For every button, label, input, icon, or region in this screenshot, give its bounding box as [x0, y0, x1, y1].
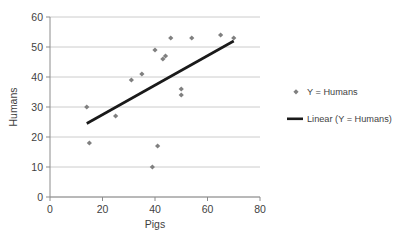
y-tick-label-60: 60 [31, 11, 43, 23]
trendline-linear [87, 41, 234, 124]
x-tick-label-20: 20 [97, 203, 109, 215]
data-point-11 [179, 92, 184, 97]
y-tick-label-50: 50 [31, 41, 43, 53]
x-tick-label-0: 0 [47, 203, 53, 215]
y-tick-labels-group: 0102030405060 [31, 11, 43, 203]
y-tick-label-30: 30 [31, 101, 43, 113]
data-point-6 [152, 47, 157, 52]
y-tick-label-10: 10 [31, 161, 43, 173]
data-point-12 [179, 86, 184, 91]
y-tick-label-0: 0 [37, 191, 43, 203]
data-point-10 [168, 35, 173, 40]
data-point-3 [129, 77, 134, 82]
chart-legend: Y = HumansLinear (Y = Humans) [287, 87, 392, 124]
data-point-1 [87, 140, 92, 145]
legend-marker-0 [293, 89, 298, 94]
data-point-7 [155, 143, 160, 148]
data-point-14 [218, 32, 223, 37]
x-tick-label-40: 40 [149, 203, 161, 215]
y-tick-marks-group [46, 17, 50, 197]
y-axis-title: Humans [7, 87, 19, 126]
data-point-0 [84, 104, 89, 109]
data-point-13 [189, 35, 194, 40]
y-tick-label-40: 40 [31, 71, 43, 83]
chart-canvas: 0102030405060 020406080 Humans Pigs Y = … [0, 0, 397, 237]
x-tick-label-80: 80 [254, 203, 266, 215]
data-point-2 [113, 113, 118, 118]
data-point-15 [231, 35, 236, 40]
data-point-4 [139, 71, 144, 76]
x-tick-label-60: 60 [202, 203, 214, 215]
trendline-group [87, 41, 234, 124]
x-tick-labels-group: 020406080 [47, 203, 266, 215]
scatter-chart: 0102030405060 020406080 Humans Pigs Y = … [0, 0, 397, 237]
x-axis-title: Pigs [145, 218, 165, 230]
x-tick-marks-group [50, 197, 260, 201]
legend-label-1: Linear (Y = Humans) [307, 114, 392, 124]
data-point-5 [150, 164, 155, 169]
legend-label-0: Y = Humans [307, 87, 358, 97]
y-tick-label-20: 20 [31, 131, 43, 143]
